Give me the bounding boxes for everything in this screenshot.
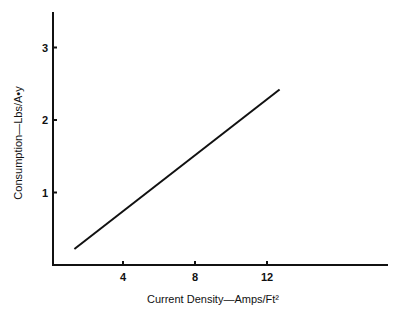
chart: 123 4812 Current Density—Amps/Ft² Consum…	[0, 0, 400, 318]
x-tick-label: 4	[120, 271, 127, 283]
data-line	[74, 90, 279, 250]
y-tick-label: 1	[42, 187, 48, 199]
plot-area: 123 4812	[42, 12, 388, 283]
y-tick-label: 2	[42, 114, 48, 126]
x-tick-label: 8	[192, 271, 198, 283]
y-ticks: 123	[42, 42, 57, 199]
x-axis-label: Current Density—Amps/Ft²	[147, 293, 279, 305]
y-tick-label: 3	[42, 42, 48, 54]
y-axis-label: Consumption—Lbs/A•y	[12, 86, 24, 200]
x-tick-label: 12	[261, 271, 273, 283]
